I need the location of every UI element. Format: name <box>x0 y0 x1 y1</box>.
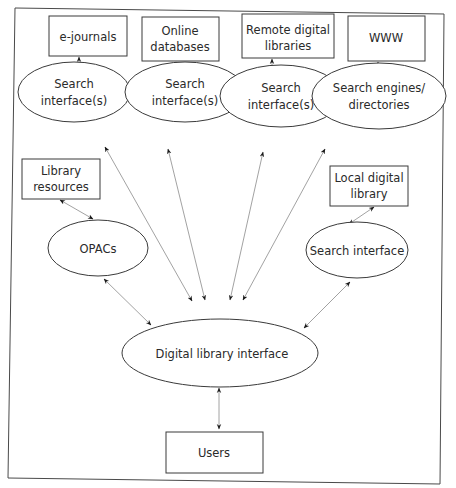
edge-search2-hub <box>168 149 205 300</box>
source-remote-digital-libraries-label-2: libraries <box>265 39 311 53</box>
interface-search-engines: Search engines/ directories <box>312 63 446 129</box>
interface-search-1-label-2: interface(s) <box>41 94 107 108</box>
source-www-label: WWW <box>369 31 403 45</box>
interface-search-engines-label-1: Search engines/ <box>333 81 425 95</box>
interface-search-2-label-2: interface(s) <box>152 94 218 108</box>
source-library-resources-label-2: resources <box>33 180 89 194</box>
hub-label: Digital library interface <box>156 347 289 361</box>
source-online-databases-label-2: databases <box>150 40 209 54</box>
hub-digital-library-interface: Digital library interface <box>122 319 318 387</box>
source-local-digital-library-label-1: Local digital <box>334 171 403 185</box>
source-local-digital-library: Local digital library <box>330 166 408 206</box>
source-www: WWW <box>348 16 425 61</box>
edge-search3-hub <box>230 152 263 300</box>
interface-search-1: Search interface(s) <box>18 62 130 122</box>
interface-opacs: OPACs <box>48 220 148 276</box>
source-ejournals: e-journals <box>49 16 127 56</box>
edge-library-resources-opacs <box>60 200 93 219</box>
interface-search-1-label-1: Search <box>54 77 94 91</box>
interface-opacs-label: OPACs <box>80 242 117 256</box>
source-online-databases-label-1: Online <box>161 24 198 38</box>
source-library-resources: Library resources <box>22 159 100 199</box>
source-ejournals-label: e-journals <box>60 30 117 44</box>
edge-search-interface-hub <box>304 282 350 328</box>
edge-local-library-search-interface <box>349 207 374 224</box>
source-online-databases: Online databases <box>142 17 219 61</box>
edge-opacs-hub <box>104 279 151 325</box>
interface-search-2-label-1: Search <box>165 77 205 91</box>
users-box: Users <box>166 432 263 473</box>
edge-search-engines-hub <box>243 149 325 300</box>
interface-search-local-label: Search interface <box>310 244 404 258</box>
source-local-digital-library-label-2: library <box>351 187 388 201</box>
interface-search-local: Search interface <box>306 222 408 278</box>
interface-search-engines-label-2: directories <box>349 98 410 112</box>
interface-search-3-label-1: Search <box>261 81 301 95</box>
interface-search-3-label-2: interface(s) <box>248 98 314 112</box>
source-library-resources-label-1: Library <box>41 164 81 178</box>
source-remote-digital-libraries-label-1: Remote digital <box>246 23 330 37</box>
digital-library-diagram: e-journals Online databases Remote digit… <box>0 0 456 488</box>
source-remote-digital-libraries: Remote digital libraries <box>242 14 334 58</box>
users-label: Users <box>198 446 230 460</box>
